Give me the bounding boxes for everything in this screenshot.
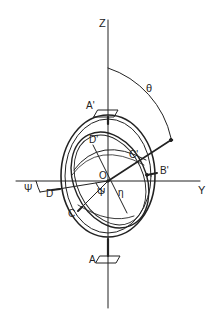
psi-outer-label: Ψ bbox=[24, 183, 32, 194]
d-label: D bbox=[46, 188, 53, 199]
theta-arc bbox=[108, 68, 171, 138]
eta-label: η bbox=[118, 187, 124, 198]
bprime-pivot-dot bbox=[146, 174, 149, 177]
c-pivot bbox=[78, 207, 82, 211]
y-axis-label: Y bbox=[198, 184, 206, 196]
gimbal-diagram: Z Y θ A' A D' C' B' O Ψ D Ψ η C bbox=[0, 0, 215, 326]
aprime-label: A' bbox=[86, 100, 95, 111]
origin-label: O bbox=[99, 170, 107, 181]
cprime-label: C' bbox=[129, 149, 138, 160]
c-label: C bbox=[68, 208, 75, 219]
dprime-label: D' bbox=[89, 134, 98, 145]
a-label: A bbox=[89, 254, 96, 265]
bprime-label: B' bbox=[160, 165, 169, 176]
inner-crescent bbox=[78, 205, 134, 219]
theta-label: θ bbox=[146, 82, 152, 94]
psi-inner-label: Ψ bbox=[97, 187, 105, 198]
z-axis-label: Z bbox=[99, 17, 106, 29]
origin-point bbox=[107, 180, 109, 182]
psi-outer-arc bbox=[36, 181, 40, 192]
